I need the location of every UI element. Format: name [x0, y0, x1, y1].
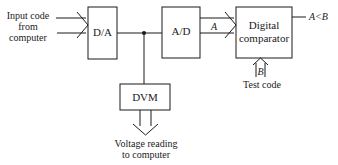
input-label: Input code from computer: [2, 10, 54, 43]
ad-label: A/D: [162, 25, 200, 37]
input-label-line-3: computer: [2, 32, 54, 43]
voltage-label-line-2: to computer: [105, 149, 187, 160]
input-label-line-1: Input code: [2, 10, 54, 21]
test-code-label: Test code: [232, 79, 292, 90]
a-bus-label: A: [208, 21, 220, 32]
input-label-line-2: from: [2, 21, 54, 32]
dvm-label: DVM: [120, 91, 170, 103]
output-label: A<B: [309, 11, 337, 22]
junction-dot: [142, 31, 146, 35]
voltage-label-line-1: Voltage reading: [105, 138, 187, 149]
input-arrowhead-icon: [77, 12, 88, 38]
da-label: D/A: [88, 26, 117, 38]
comparator-label: Digital comparator: [236, 19, 292, 45]
dvm-out-arrowhead-icon: [133, 124, 158, 135]
voltage-reading-label: Voltage reading to computer: [105, 138, 187, 160]
b-bus-label: B: [256, 66, 265, 77]
a-bus-arrowhead-icon: [225, 12, 236, 38]
b-bus-arrowhead-icon: [253, 58, 268, 65]
comparator-label-line-2: comparator: [236, 32, 292, 45]
comparator-label-line-1: Digital: [236, 19, 292, 32]
